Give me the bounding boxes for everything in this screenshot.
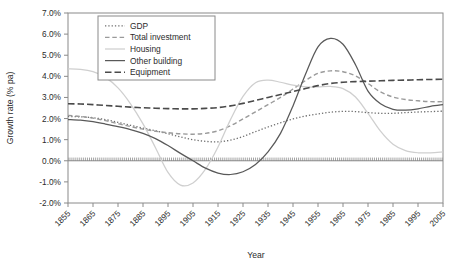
- y-axis-title: Growth rate (% pa): [5, 72, 15, 145]
- growth-rate-line-chart: -2.0%-1.0%0.0%1.0%2.0%3.0%4.0%5.0%6.0%7.…: [0, 0, 457, 268]
- chart-canvas: -2.0%-1.0%0.0%1.0%2.0%3.0%4.0%5.0%6.0%7.…: [0, 0, 457, 268]
- y-tick-label: 5.0%: [42, 50, 62, 60]
- legend-label-housing: Housing: [130, 44, 161, 54]
- legend-label-gdp: GDP: [130, 21, 149, 31]
- y-tick-label: 3.0%: [42, 92, 62, 102]
- chart-background: [0, 0, 457, 268]
- y-tick-label: 0.0%: [42, 156, 62, 166]
- x-axis-title: Year: [247, 250, 265, 260]
- chart-legend: GDPTotal investmentHousingOther building…: [98, 16, 215, 80]
- legend-label-equipment: Equipment: [130, 67, 171, 77]
- y-tick-label: 1.0%: [42, 135, 62, 145]
- y-tick-label: 7.0%: [42, 8, 62, 18]
- y-tick-label: 2.0%: [42, 114, 62, 124]
- legend-label-other-building: Other building: [130, 56, 182, 66]
- y-tick-label: -1.0%: [39, 177, 61, 187]
- legend-label-total-investment: Total investment: [130, 32, 191, 42]
- y-tick-label: -2.0%: [39, 198, 61, 208]
- y-tick-label: 4.0%: [42, 71, 62, 81]
- zero-line-hatching: [68, 158, 443, 161]
- y-tick-label: 6.0%: [42, 29, 62, 39]
